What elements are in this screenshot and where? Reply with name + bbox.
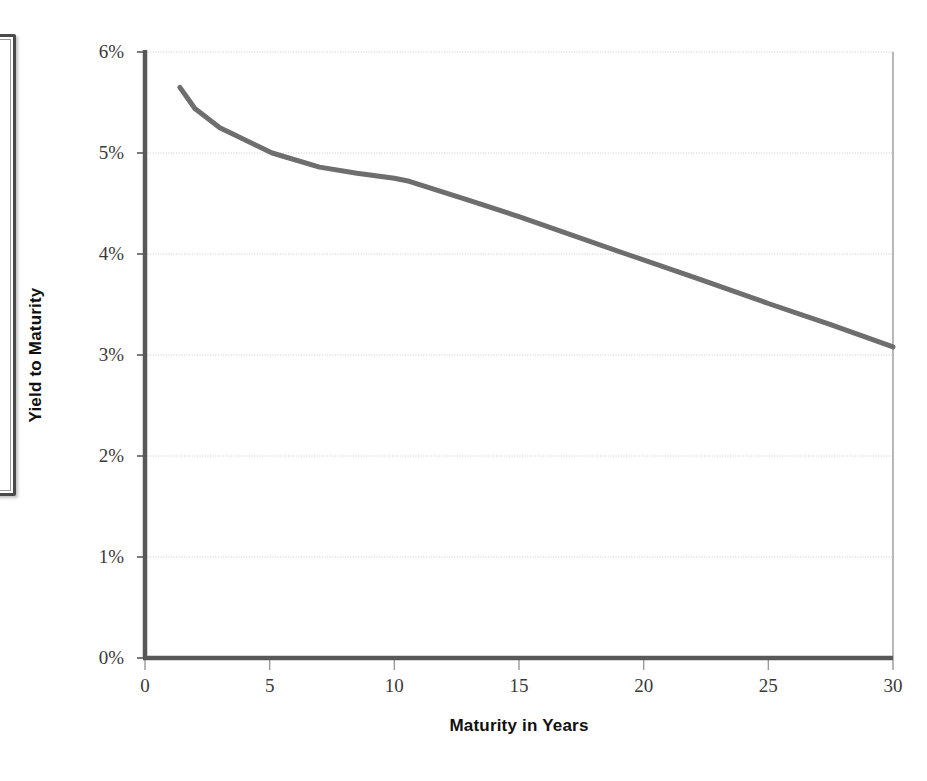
x-tick-label: 20 (614, 676, 674, 695)
y-tick-label: 2% (62, 446, 124, 465)
y-axis-title: Yield to Maturity (26, 52, 46, 658)
y-tick-label: 6% (62, 42, 124, 61)
x-tick-label: 10 (364, 676, 424, 695)
x-tick-label: 0 (115, 676, 175, 695)
x-axis-title: Maturity in Years (145, 716, 893, 736)
y-tick-label: 5% (62, 143, 124, 162)
x-tick-label: 30 (863, 676, 923, 695)
yield-curve-chart: 6%5%4%3%2%1%0% 051015202530 Yield to Mat… (0, 0, 927, 781)
series-line-0 (180, 87, 893, 347)
y-tick-label: 4% (62, 244, 124, 263)
axis-lines-group (143, 50, 893, 658)
chart-canvas (0, 0, 927, 781)
y-tick-label: 1% (62, 547, 124, 566)
gridlines-group (145, 52, 893, 557)
x-tick-label: 25 (738, 676, 798, 695)
data-series-group (180, 87, 893, 347)
y-tick-label: 3% (62, 345, 124, 364)
y-tick-label: 0% (62, 648, 124, 667)
x-tick-label: 15 (489, 676, 549, 695)
x-tick-label: 5 (240, 676, 300, 695)
